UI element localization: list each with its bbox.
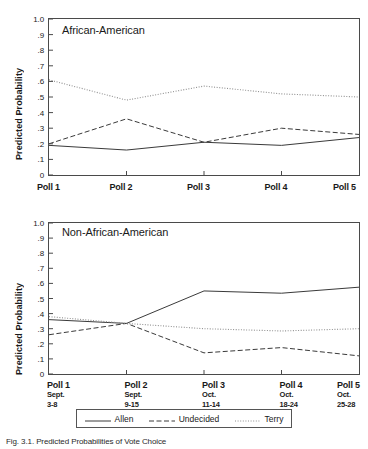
panel-title-bottom: Non-African-American bbox=[62, 226, 168, 238]
legend-item-undecided: Undecided bbox=[149, 414, 220, 424]
y-tick-label: 1.0 bbox=[22, 219, 44, 228]
y-tick-label: .6 bbox=[22, 279, 44, 288]
chart-panel-non-african-american: Predicted Probability 1.0.9.8.7.6.5.4.3.… bbox=[0, 210, 368, 395]
x-tick-label: Poll 4 bbox=[265, 182, 288, 192]
chart-panel-african-american: Predicted Probability 1.0.9.8.7.6.5.4.3.… bbox=[0, 0, 368, 205]
legend-swatch-solid bbox=[85, 416, 111, 422]
y-tick-label: .8 bbox=[22, 46, 44, 55]
y-tick-label: .2 bbox=[22, 139, 44, 148]
y-tick-label: .3 bbox=[22, 324, 44, 333]
x-tick-label: Poll 5 bbox=[333, 182, 356, 192]
x-tick-label: Poll 2 bbox=[110, 182, 133, 192]
y-tick-label: .9 bbox=[22, 30, 44, 39]
x-tick-label: Poll 3 bbox=[187, 182, 210, 192]
legend-item-allen: Allen bbox=[85, 414, 134, 424]
y-tick-label: .3 bbox=[22, 124, 44, 133]
y-tick-label: .5 bbox=[22, 93, 44, 102]
y-tick-label: .1 bbox=[22, 354, 44, 363]
legend-label: Allen bbox=[115, 414, 134, 424]
x-tick-label: Poll 5Oct.25-28 bbox=[337, 380, 360, 409]
legend-label: Undecided bbox=[179, 414, 220, 424]
legend-swatch-dotted bbox=[235, 416, 261, 422]
y-tick-label: .4 bbox=[22, 108, 44, 117]
figure-caption: Fig. 3.1. Predicted Probabilities of Vot… bbox=[6, 437, 166, 446]
y-tick-label: .7 bbox=[22, 264, 44, 273]
legend-label: Terry bbox=[265, 414, 284, 424]
y-tick-label: .4 bbox=[22, 309, 44, 318]
y-tick-label: 1.0 bbox=[22, 15, 44, 24]
x-tick-label: Poll 4Oct.18-24 bbox=[280, 380, 303, 409]
x-tick-label: Poll 3Oct.11-14 bbox=[202, 380, 225, 409]
y-tick-label: .7 bbox=[22, 61, 44, 70]
y-tick-label: 0 bbox=[22, 370, 44, 379]
y-tick-label: 0 bbox=[22, 171, 44, 180]
legend-item-terry: Terry bbox=[235, 414, 284, 424]
y-tick-label: .9 bbox=[22, 234, 44, 243]
legend: AllenUndecidedTerry bbox=[76, 409, 292, 428]
panel-title-top: African-American bbox=[62, 24, 145, 36]
plot-area-bottom bbox=[48, 222, 360, 375]
y-tick-label: .8 bbox=[22, 249, 44, 258]
plot-area-top bbox=[48, 18, 360, 176]
legend-swatch-dashed bbox=[149, 416, 175, 422]
y-tick-label: .6 bbox=[22, 77, 44, 86]
y-tick-label: .5 bbox=[22, 294, 44, 303]
y-tick-label: .1 bbox=[22, 155, 44, 164]
x-tick-label: Poll 1Sept.3-8 bbox=[47, 380, 70, 409]
y-tick-label: .2 bbox=[22, 339, 44, 348]
x-tick-label: Poll 2Sept.9-15 bbox=[125, 380, 148, 409]
figure-predicted-probabilities: Predicted Probability 1.0.9.8.7.6.5.4.3.… bbox=[0, 0, 368, 449]
x-tick-label: Poll 1 bbox=[37, 182, 60, 192]
